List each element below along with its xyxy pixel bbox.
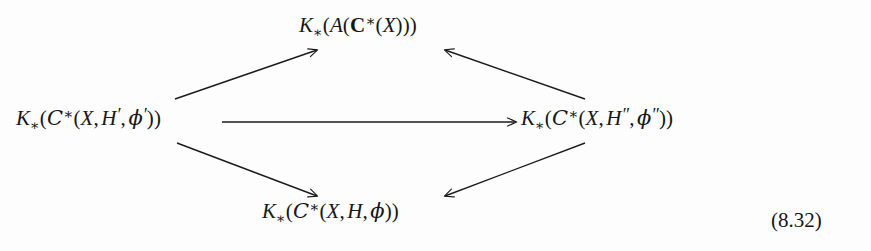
node-left-star-sub: ∗ (30, 117, 40, 133)
node-bottom-close: )) (385, 199, 399, 223)
node-right-phi-double-prime: ″ (651, 105, 659, 125)
node-right-star-sup: ∗ (568, 106, 578, 122)
node-bottom-script-C: C (293, 199, 309, 223)
node-left-star-sup: ∗ (63, 106, 73, 122)
node-right-close: )) (659, 106, 673, 130)
node-bottom-phi: ϕ (370, 199, 384, 223)
node-right-H: H (606, 106, 621, 130)
equation-number: (8.32) (771, 208, 822, 233)
node-right-H-double-prime: ″ (622, 105, 630, 125)
node-left-X: X (81, 106, 94, 130)
node-top-star-sub: ∗ (313, 24, 323, 40)
arrow-right-to-bottom (445, 143, 585, 196)
node-bottom-paren-2: ( (319, 199, 326, 223)
node-bottom-H: H (347, 199, 362, 223)
arrow-left-to-top (175, 50, 317, 99)
node-left-K: K (16, 106, 30, 130)
node-bottom-X: X (327, 199, 340, 223)
node-top-paren-2: ( (343, 13, 350, 37)
node-right-paren-1: ( (545, 106, 552, 130)
node-top-A: A (330, 13, 343, 37)
node-right-comma-2: , (629, 106, 637, 130)
node-top-paren-3: ( (376, 13, 383, 37)
node-top-close: ))) (396, 13, 417, 37)
node-right-star-sub: ∗ (535, 117, 545, 133)
node-top-star-sup: ∗ (365, 13, 375, 29)
node-top-paren-1: ( (323, 13, 330, 37)
node-bottom: K∗(C∗(X,H,ϕ)) (262, 200, 399, 225)
node-top-bold-C: C (350, 13, 365, 37)
node-left: K∗(C∗(X,H′,ϕ′)) (16, 106, 161, 132)
node-top-K: K (299, 13, 313, 37)
node-right-script-C: C (552, 106, 568, 130)
node-right-X: X (586, 106, 599, 130)
node-bottom-star-sup: ∗ (309, 199, 319, 215)
node-right-paren-2: ( (578, 106, 585, 130)
node-top-X: X (383, 13, 396, 37)
node-right: K∗(C∗(X,H″,ϕ″)) (521, 106, 673, 132)
node-left-script-C: C (47, 106, 63, 130)
node-left-paren-2: ( (73, 106, 80, 130)
node-bottom-paren-1: ( (286, 199, 293, 223)
node-right-K: K (521, 106, 535, 130)
node-bottom-star-sub: ∗ (276, 210, 286, 226)
node-left-H: H (101, 106, 116, 130)
arrow-left-to-bottom (177, 143, 317, 196)
arrow-right-to-top (445, 50, 585, 99)
node-right-phi: ϕ (637, 106, 651, 130)
equation-figure: K∗(A(C∗(X))) K∗(C∗(X,H′,ϕ′)) K∗(C∗(X,H″,… (0, 0, 871, 251)
node-top: K∗(A(C∗(X))) (299, 14, 417, 39)
node-bottom-K: K (262, 199, 276, 223)
node-left-phi: ϕ (128, 106, 142, 130)
node-left-close: )) (147, 106, 161, 130)
node-left-paren-1: ( (40, 106, 47, 130)
